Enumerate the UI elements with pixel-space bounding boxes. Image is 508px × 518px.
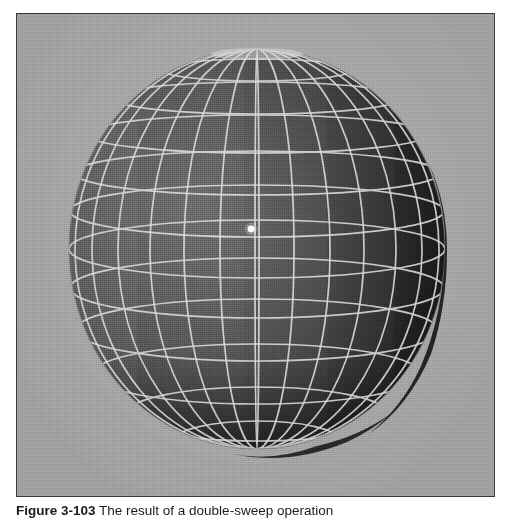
figure-caption-label: Figure 3-103 — [16, 503, 96, 518]
sphere-svg — [17, 14, 494, 496]
sphere-top-pole-highlight — [211, 48, 303, 60]
figure-page: Figure 3-103 The result of a double-swee… — [0, 0, 508, 518]
sphere-render[interactable] — [17, 14, 494, 496]
figure-caption: Figure 3-103 The result of a double-swee… — [16, 503, 496, 518]
sphere-body — [69, 49, 445, 449]
selected-vertex-marker[interactable] — [245, 223, 258, 236]
figure-caption-text: The result of a double-sweep operation — [99, 503, 333, 518]
3d-viewport-panel[interactable] — [16, 13, 495, 497]
